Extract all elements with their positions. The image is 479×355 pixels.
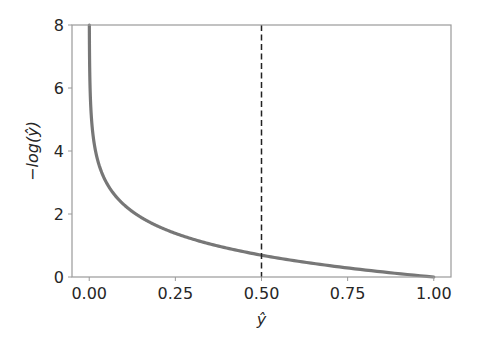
x-tick-label: 0.25 — [158, 284, 194, 303]
x-axis-ticks: 0.000.250.500.751.00 — [71, 277, 451, 303]
x-tick-label: 0.50 — [244, 284, 280, 303]
y-tick-label: 4 — [54, 142, 64, 161]
x-tick-label: 0.75 — [330, 284, 366, 303]
y-axis-ticks: 02468 — [54, 16, 72, 287]
x-axis-label: ŷ — [256, 310, 267, 329]
y-tick-label: 6 — [54, 79, 64, 98]
x-tick-label: 0.00 — [71, 284, 107, 303]
y-tick-label: 2 — [54, 205, 64, 224]
x-tick-label: 1.00 — [416, 284, 452, 303]
y-axis-label: −log(ŷ) — [23, 121, 42, 181]
y-tick-label: 0 — [54, 268, 64, 287]
chart: 0.000.250.500.751.00 02468 ŷ −log(ŷ) — [0, 0, 479, 355]
y-tick-label: 8 — [54, 16, 64, 35]
